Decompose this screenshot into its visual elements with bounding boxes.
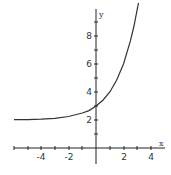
y-axis-label: y bbox=[98, 10, 104, 19]
x-tick-label: 2 bbox=[121, 152, 127, 162]
y-tick-label: 2 bbox=[86, 115, 92, 125]
exponential-curve bbox=[14, 3, 139, 120]
y-tick-label: 4 bbox=[86, 87, 92, 97]
x-tick-label: 4 bbox=[148, 152, 154, 162]
x-axis-label: x bbox=[159, 139, 164, 148]
x-tick-label: -2 bbox=[65, 152, 74, 162]
function-graph: -4 -2 2 4 2 4 6 8 x y bbox=[0, 0, 171, 175]
y-tick-label: 6 bbox=[86, 59, 92, 69]
y-tick-label: 8 bbox=[86, 31, 92, 41]
x-tick-label: -4 bbox=[37, 152, 46, 162]
